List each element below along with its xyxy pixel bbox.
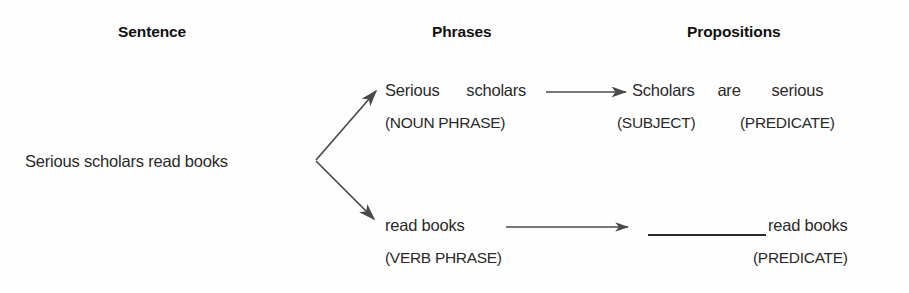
proposition-word: Scholars — [632, 81, 695, 100]
phrase-verb-phrase: read books — [385, 216, 465, 235]
column-header-propositions: Propositions — [687, 23, 781, 41]
column-header-sentence: Sentence — [118, 23, 186, 41]
proposition-role-predicate-top: (PREDICATE) — [740, 114, 835, 132]
phrase-word: scholars — [466, 81, 526, 100]
branch-arrow-down — [316, 161, 374, 219]
proposition-top: Scholars are serious — [632, 81, 823, 100]
proposition-word: serious — [771, 81, 823, 100]
proposition-role-predicate-bottom: (PREDICATE) — [753, 249, 848, 267]
column-header-phrases: Phrases — [432, 23, 492, 41]
sentence-text: Serious scholars read books — [25, 152, 228, 171]
diagram-canvas: Sentence Phrases Propositions Serious sc… — [0, 0, 909, 293]
proposition-role-subject: (SUBJECT) — [617, 114, 695, 132]
proposition-word: are — [717, 81, 740, 100]
phrase-word: Serious — [385, 81, 440, 100]
phrase-noun-phrase: Serious scholars — [385, 81, 526, 100]
branch-arrow-up — [316, 91, 376, 160]
proposition-blank-subject-line — [648, 234, 766, 236]
phrase-category-noun-phrase: (NOUN PHRASE) — [385, 114, 505, 132]
proposition-bottom-words: read books — [768, 216, 848, 235]
phrase-category-verb-phrase: (VERB PHRASE) — [385, 249, 502, 267]
